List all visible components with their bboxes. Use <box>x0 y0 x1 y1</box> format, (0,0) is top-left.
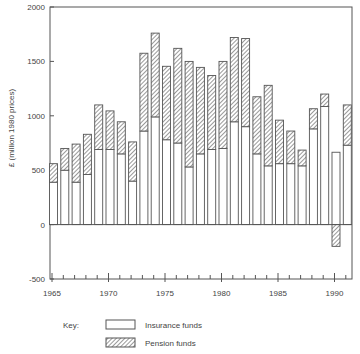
pension-segment <box>253 97 261 154</box>
insurance-segment <box>230 122 238 225</box>
insurance-segment <box>106 150 114 225</box>
bar-1965 <box>50 164 58 225</box>
bar-1970 <box>106 111 114 225</box>
bar-1983 <box>253 97 261 225</box>
y-tick-label: -500 <box>29 275 46 284</box>
x-tick-label: 1990 <box>326 289 344 298</box>
bar-1972 <box>129 142 137 225</box>
y-tick-label: 1000 <box>27 112 45 121</box>
insurance-segment <box>253 154 261 225</box>
bar-1988 <box>309 109 317 225</box>
insurance-segment <box>117 154 125 225</box>
pension-segment <box>163 66 171 139</box>
bar-1968 <box>83 134 91 224</box>
bar-1981 <box>230 37 238 224</box>
x-tick-label: 1970 <box>100 289 118 298</box>
insurance-segment <box>185 167 193 225</box>
legend-label-pension: Pension funds <box>145 339 196 348</box>
insurance-segment <box>196 154 204 225</box>
y-axis-title: £ (million 1980 prices) <box>7 89 16 168</box>
bar-1969 <box>95 105 103 225</box>
bar-1980 <box>219 61 227 224</box>
insurance-segment <box>163 140 171 225</box>
pension-segment <box>83 134 91 174</box>
bar-1966 <box>61 148 69 224</box>
bar-1987 <box>298 150 306 225</box>
pension-segment <box>309 109 317 129</box>
bar-1973 <box>140 53 148 224</box>
insurance-segment <box>309 129 317 225</box>
insurance-segment <box>140 131 148 225</box>
y-tick-label: 1500 <box>27 57 45 66</box>
insurance-segment <box>61 170 69 224</box>
legend-swatch-pension <box>106 338 135 347</box>
bar-1982 <box>242 39 250 225</box>
insurance-segment <box>151 117 159 225</box>
bar-1976 <box>174 48 182 224</box>
pension-segment <box>61 148 69 170</box>
pension-segment <box>129 142 137 181</box>
insurance-segment <box>298 166 306 225</box>
bar-1971 <box>117 122 125 225</box>
insurance-segment <box>242 127 250 225</box>
bar-1979 <box>208 76 216 225</box>
insurance-segment <box>174 143 182 225</box>
stacked-bar-chart: £ (million 1980 prices) 2000150010005000… <box>0 0 360 354</box>
x-tick-label: 1980 <box>213 289 231 298</box>
legend-key-label: Key: <box>63 321 79 330</box>
pension-segment <box>343 105 351 145</box>
y-axis-label: £ (million 1980 prices) <box>7 89 16 168</box>
insurance-segment <box>129 181 137 225</box>
bar-1978 <box>196 67 204 224</box>
x-tick-label: 1975 <box>156 289 174 298</box>
pension-segment <box>95 105 103 150</box>
bar-1974 <box>151 33 159 224</box>
pension-segment <box>140 53 148 131</box>
pension-segment <box>321 94 329 107</box>
pension-segment <box>219 61 227 148</box>
bar-1991 <box>343 105 351 225</box>
insurance-segment <box>343 145 351 224</box>
insurance-segment <box>332 152 340 224</box>
pension-segment <box>298 150 306 166</box>
insurance-segment <box>83 175 91 225</box>
insurance-segment <box>50 182 58 224</box>
legend-swatch-insurance <box>106 320 135 329</box>
pension-segment <box>276 120 284 164</box>
bar-1967 <box>72 144 80 225</box>
insurance-segment <box>95 150 103 225</box>
pension-segment <box>264 85 272 166</box>
legend-label-insurance: Insurance funds <box>145 321 202 330</box>
insurance-segment <box>287 164 295 225</box>
bar-1984 <box>264 85 272 224</box>
pension-segment-negative <box>332 225 340 247</box>
pension-segment <box>185 61 193 167</box>
y-tick-label: 2000 <box>27 3 45 12</box>
bar-1985 <box>276 120 284 224</box>
pension-segment <box>106 111 114 150</box>
x-tick-label: 1985 <box>269 289 287 298</box>
x-axis-ticks: 196519701975198019851990 <box>43 273 346 298</box>
y-tick-label: 0 <box>41 221 46 230</box>
insurance-segment <box>219 148 227 224</box>
bar-1986 <box>287 131 295 225</box>
bar-1990 <box>332 152 340 246</box>
insurance-segment <box>276 164 284 225</box>
pension-segment <box>230 37 238 121</box>
bar-1977 <box>185 61 193 224</box>
bar-1975 <box>163 66 171 224</box>
insurance-segment <box>321 107 329 225</box>
pension-segment <box>208 76 216 150</box>
pension-segment <box>242 39 250 127</box>
bar-1989 <box>321 94 329 225</box>
pension-segment <box>287 131 295 164</box>
insurance-segment <box>264 166 272 225</box>
pension-segment <box>151 33 159 117</box>
insurance-segment <box>208 150 216 225</box>
bars-group <box>50 33 352 246</box>
insurance-segment <box>72 182 80 224</box>
x-tick-label: 1965 <box>43 289 61 298</box>
pension-segment <box>50 164 58 182</box>
y-tick-label: 500 <box>32 166 46 175</box>
pension-segment <box>117 122 125 154</box>
